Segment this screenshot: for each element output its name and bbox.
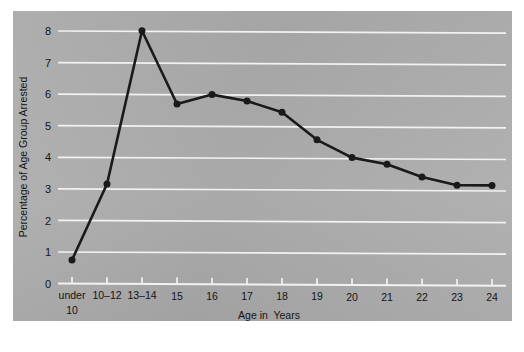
y-tick-label-8: 8 xyxy=(45,25,51,37)
data-point-17 xyxy=(244,98,251,105)
y-axis-title: Percentage of Age Group Arrested xyxy=(17,77,29,238)
x-tick-text-16: 16 xyxy=(206,290,218,302)
y-axis-tick-labels: 8 7 6 5 4 3 2 1 0 xyxy=(45,25,51,290)
data-point-15 xyxy=(174,101,181,108)
x-tick-text-20: 20 xyxy=(346,291,358,303)
data-point-13-14 xyxy=(139,27,146,34)
x-tick-text-21: 21 xyxy=(381,291,393,303)
gridline-2 xyxy=(58,220,506,222)
gridline-5 xyxy=(58,126,506,128)
gridline-4 xyxy=(58,157,506,159)
x-tick-text-13-14: 13–14 xyxy=(127,289,156,301)
data-point-21 xyxy=(384,161,391,168)
data-point-18 xyxy=(279,109,286,116)
x-tick-text-17: 17 xyxy=(241,290,253,302)
x-axis-title: Age in Years xyxy=(238,309,300,321)
x-tick-text-under-10-line1: under xyxy=(59,289,86,301)
chart-figure: 8 7 6 5 4 3 2 1 0 under 10 10–12 13–14 1… xyxy=(0,0,524,352)
y-tick-label-3: 3 xyxy=(45,183,51,195)
gridline-7 xyxy=(58,63,506,65)
data-point-22 xyxy=(419,174,426,181)
gridline-8 xyxy=(58,31,506,33)
y-tick-label-5: 5 xyxy=(45,120,51,132)
data-point-19 xyxy=(314,136,321,143)
y-tick-label-1: 1 xyxy=(45,246,51,258)
data-point-24 xyxy=(489,182,496,189)
gridline-1 xyxy=(58,252,506,254)
y-tick-label-0: 0 xyxy=(45,278,51,290)
x-tick-text-19: 19 xyxy=(311,290,323,302)
gridlines-group xyxy=(58,31,506,254)
y-tick-label-7: 7 xyxy=(45,57,51,69)
gridline-3 xyxy=(58,189,506,191)
line-chart-svg: 8 7 6 5 4 3 2 1 0 under 10 10–12 13–14 1… xyxy=(13,11,512,321)
gridline-6 xyxy=(58,94,506,96)
x-tick-text-18: 18 xyxy=(276,290,288,302)
x-tick-text-10-12: 10–12 xyxy=(92,289,121,301)
y-tick-label-6: 6 xyxy=(45,88,51,100)
x-tick-text-23: 23 xyxy=(451,291,463,303)
chart-plot-panel: 8 7 6 5 4 3 2 1 0 under 10 10–12 13–14 1… xyxy=(13,11,512,321)
y-tick-label-2: 2 xyxy=(45,215,51,227)
data-point-10-12 xyxy=(104,181,111,188)
x-tick-text-under-10-line2: 10 xyxy=(66,304,78,316)
x-tick-text-15: 15 xyxy=(171,290,183,302)
x-tick-text-22: 22 xyxy=(416,291,428,303)
data-point-23 xyxy=(454,182,461,189)
data-point-20 xyxy=(349,154,356,161)
data-point-16 xyxy=(209,91,216,98)
y-tick-label-4: 4 xyxy=(45,151,51,163)
x-tick-text-24: 24 xyxy=(486,291,498,303)
data-point-under-10 xyxy=(69,257,76,264)
